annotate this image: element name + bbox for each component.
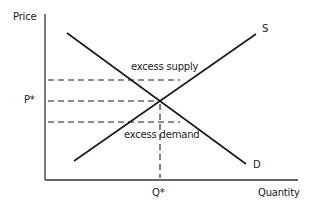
supply-demand-diagram: Price Quantity S D P* Q* excess supply e… — [0, 0, 313, 207]
y-axis-label: Price — [13, 12, 36, 22]
supply-curve-label: S — [262, 24, 268, 34]
demand-curve — [67, 33, 246, 164]
equilibrium-price-label: P* — [24, 95, 35, 105]
demand-curve-label: D — [253, 160, 261, 170]
excess-supply-label: excess supply — [131, 62, 198, 72]
excess-demand-label: excess demand — [124, 130, 199, 140]
equilibrium-quantity-label: Q* — [152, 188, 164, 198]
supply-curve — [74, 34, 256, 161]
x-axis-label: Quantity — [258, 188, 300, 198]
